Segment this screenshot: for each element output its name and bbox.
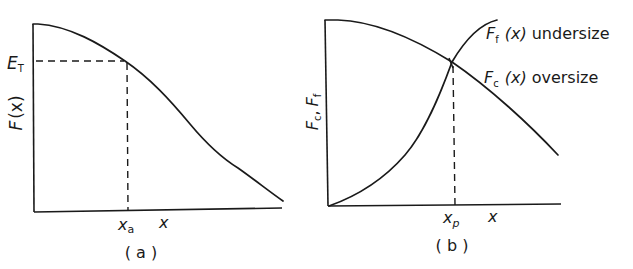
panel-a-caption: ( a ) bbox=[125, 243, 157, 262]
panel-a-x-axis bbox=[34, 208, 282, 212]
panel-a-y-axis-label: F(x) bbox=[6, 95, 26, 130]
panel-b-undersize-curve bbox=[329, 20, 497, 206]
panel-b: Fc,Ff Ff(x)undersize Fc(x)oversize xp x … bbox=[303, 20, 610, 255]
panel-b-y-axis-label: Fc,Ff bbox=[303, 93, 323, 130]
panel-a-xa-label: xa bbox=[117, 215, 134, 236]
panel-a: ET F(x) xa x ( a ) bbox=[6, 24, 283, 262]
panel-b-oversize-label: Fc(x)oversize bbox=[484, 68, 598, 89]
panel-b-undersize-label: Ff(x)undersize bbox=[486, 24, 610, 45]
panel-a-xa-dashed-line bbox=[127, 63, 128, 211]
panel-a-curve bbox=[33, 24, 283, 201]
panel-a-y-axis bbox=[33, 24, 34, 212]
panel-b-x-axis bbox=[328, 204, 561, 206]
panel-b-y-axis bbox=[325, 20, 328, 206]
figure: ET F(x) xa x ( a ) Fc,Ff Ff(x)undersize … bbox=[0, 0, 633, 269]
panel-a-et-label: ET bbox=[7, 53, 25, 74]
panel-b-xp-label: xp bbox=[442, 208, 459, 230]
panel-b-xp-dashed-line bbox=[453, 66, 455, 205]
panel-b-x-axis-label: x bbox=[487, 207, 498, 226]
panel-b-caption: ( b ) bbox=[436, 236, 469, 255]
panel-a-x-axis-label: x bbox=[158, 213, 169, 232]
